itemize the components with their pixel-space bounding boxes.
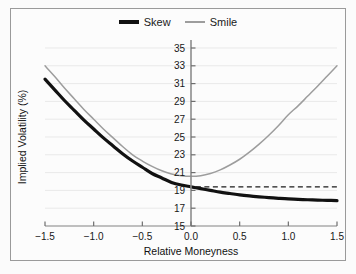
y-axis-title: Implied Volatility (%) <box>16 90 28 185</box>
plot-area: 1517192123252729313335−1.5−1.0−0.50.00.5… <box>10 8 346 261</box>
chart-figure: Skew Smile 1517192123252729313335−1.5−1.… <box>0 0 356 274</box>
y-tick-label: 31 <box>174 78 186 89</box>
x-tick-label: −1.0 <box>84 231 104 242</box>
y-tick-label: 27 <box>174 114 186 125</box>
y-tick-label: 21 <box>174 167 186 178</box>
legend-swatch-smile-icon <box>185 21 205 23</box>
legend-label-skew: Skew <box>144 17 171 28</box>
legend-swatch-skew-icon <box>119 20 139 24</box>
y-tick-label: 35 <box>174 43 186 54</box>
legend-item-skew: Skew <box>119 17 171 28</box>
y-tick-label: 17 <box>174 203 186 214</box>
y-tick-label: 29 <box>174 96 186 107</box>
chart-legend: Skew Smile <box>0 14 356 30</box>
y-tick-label: 25 <box>174 132 186 143</box>
y-tick-label: 23 <box>174 149 186 160</box>
x-tick-label: 0.0 <box>184 231 198 242</box>
x-axis-title: Relative Moneyness <box>144 245 239 257</box>
x-tick-label: 1.0 <box>281 231 295 242</box>
x-tick-label: −1.5 <box>35 231 55 242</box>
tick-labels: 1517192123252729313335−1.5−1.0−0.50.00.5… <box>35 43 344 242</box>
legend-label-smile: Smile <box>210 17 238 28</box>
y-tick-label: 33 <box>174 60 186 71</box>
x-tick-label: 1.5 <box>330 231 344 242</box>
x-tick-label: −0.5 <box>132 231 152 242</box>
legend-item-smile: Smile <box>185 17 238 28</box>
y-tick-label: 19 <box>174 185 186 196</box>
x-tick-label: 0.5 <box>233 231 247 242</box>
y-tick-label: 15 <box>174 221 186 232</box>
